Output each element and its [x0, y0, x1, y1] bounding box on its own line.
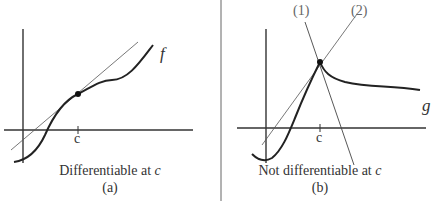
- caption-b: Not differentiable at c: [259, 163, 382, 179]
- label-line-2: (2): [351, 3, 367, 19]
- differentiability-diagram: f c Differentiable at c (a) (1) (2) g c …: [0, 0, 434, 201]
- curve-g: [252, 62, 420, 160]
- caption-b-text: Not differentiable at: [259, 163, 376, 178]
- caption-b-var: c: [375, 163, 381, 178]
- caption-a-text: Differentiable at: [59, 163, 154, 178]
- label-c-a: c: [74, 131, 80, 147]
- line-1: [305, 22, 354, 165]
- line-2: [262, 14, 357, 145]
- sublabel-b: (b): [312, 180, 328, 196]
- caption-a-var: c: [155, 163, 161, 178]
- label-g: g: [422, 96, 431, 116]
- label-line-1: (1): [293, 3, 309, 19]
- sublabel-a: (a): [102, 180, 118, 196]
- label-c-b: c: [316, 130, 322, 146]
- point-c: [75, 91, 81, 97]
- panel-b-graph: [237, 14, 426, 165]
- label-f: f: [160, 44, 165, 64]
- curve-f: [14, 45, 153, 162]
- point-c: [317, 59, 323, 65]
- caption-a: Differentiable at c: [59, 163, 161, 179]
